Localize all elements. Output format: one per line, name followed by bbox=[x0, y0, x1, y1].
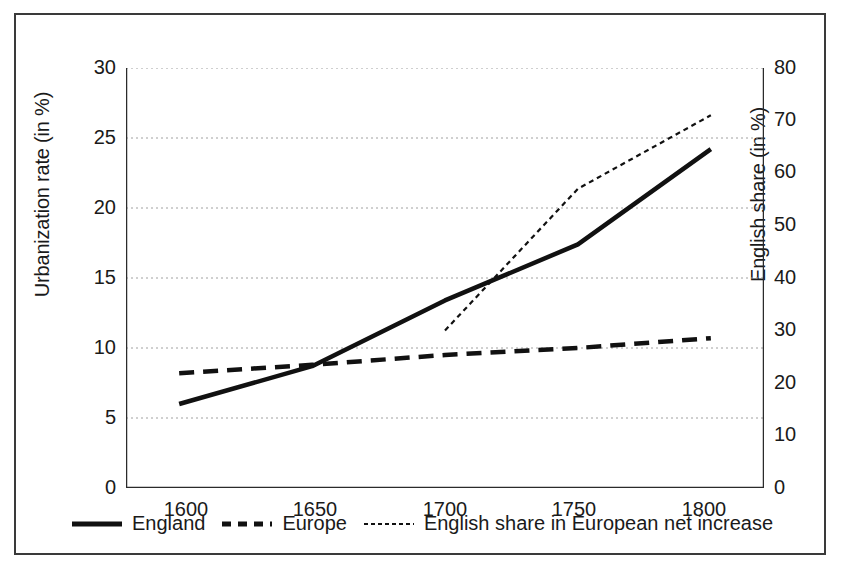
y-axis-left-title: Urbanization rate (in %) bbox=[31, 65, 54, 325]
y-tick-right-40: 40 bbox=[774, 266, 834, 289]
chart-frame: Urbanization rate (in %) English share (… bbox=[14, 13, 826, 555]
y-tick-left-20: 20 bbox=[56, 196, 116, 219]
chart-figure: Urbanization rate (in %) English share (… bbox=[0, 0, 852, 583]
chart-legend: England Europe English share in European… bbox=[16, 512, 828, 535]
y-tick-left-15: 15 bbox=[56, 266, 116, 289]
y-tick-left-0: 0 bbox=[56, 476, 116, 499]
series-line-europe bbox=[179, 338, 711, 373]
legend-swatch-solid bbox=[71, 518, 123, 530]
series-line-english-share-in-european-net-increase bbox=[445, 115, 711, 330]
y-tick-left-5: 5 bbox=[56, 406, 116, 429]
legend-item-england[interactable]: England bbox=[71, 512, 205, 535]
y-tick-left-25: 25 bbox=[56, 126, 116, 149]
y-tick-right-80: 80 bbox=[774, 56, 834, 79]
legend-label-english-share: English share in European net increase bbox=[424, 512, 773, 535]
y-tick-right-70: 70 bbox=[774, 108, 834, 131]
gridlines bbox=[126, 68, 764, 418]
legend-label-england: England bbox=[132, 512, 205, 535]
y-tick-left-30: 30 bbox=[56, 56, 116, 79]
legend-swatch-dotted bbox=[363, 518, 415, 530]
legend-swatch-dashed bbox=[221, 518, 273, 530]
y-tick-right-20: 20 bbox=[774, 371, 834, 394]
y-tick-right-30: 30 bbox=[774, 318, 834, 341]
plot-canvas bbox=[126, 68, 764, 488]
legend-item-english-share[interactable]: English share in European net increase bbox=[363, 512, 773, 535]
y-tick-right-0: 0 bbox=[774, 476, 834, 499]
legend-label-europe: Europe bbox=[282, 512, 347, 535]
y-tick-right-10: 10 bbox=[774, 423, 834, 446]
y-tick-right-60: 60 bbox=[774, 160, 834, 183]
series-layer bbox=[179, 115, 711, 404]
plot-area: 30 25 20 15 10 5 0 80 70 60 50 40 30 20 … bbox=[126, 68, 764, 488]
series-line-england bbox=[179, 149, 711, 404]
y-tick-left-10: 10 bbox=[56, 336, 116, 359]
legend-item-europe[interactable]: Europe bbox=[221, 512, 347, 535]
y-tick-right-50: 50 bbox=[774, 213, 834, 236]
